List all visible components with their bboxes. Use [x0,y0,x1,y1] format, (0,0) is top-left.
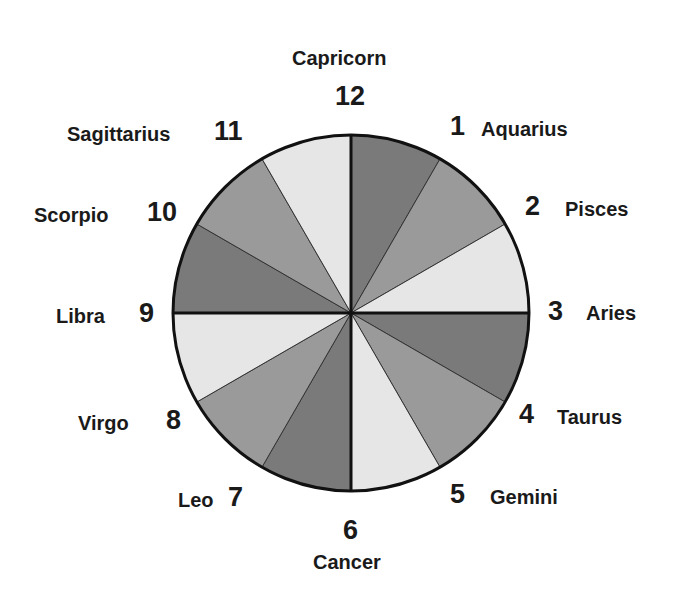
number-3: 3 [548,298,563,325]
number-8: 8 [166,407,181,434]
label-scorpio: Scorpio [34,205,108,225]
number-7: 7 [228,484,243,511]
label-aquarius: Aquarius [481,119,568,139]
label-sagittarius: Sagittarius [67,124,170,144]
label-libra: Libra [56,306,105,326]
number-6: 6 [343,517,358,544]
number-11: 11 [214,118,243,145]
number-1: 1 [450,113,465,140]
number-2: 2 [525,193,540,220]
label-leo: Leo [178,490,214,510]
number-5: 5 [450,481,465,508]
label-virgo: Virgo [78,413,129,433]
label-capricorn: Capricorn [292,48,386,68]
label-gemini: Gemini [490,487,558,507]
number-12: 12 [335,83,365,110]
number-4: 4 [519,401,534,428]
label-pisces: Pisces [565,199,628,219]
label-aries: Aries [586,303,636,323]
number-10: 10 [147,199,177,226]
number-9: 9 [139,300,154,327]
label-taurus: Taurus [557,407,622,427]
label-cancer: Cancer [313,552,381,572]
